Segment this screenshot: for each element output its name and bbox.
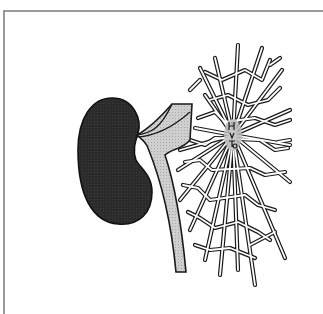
kidney — [78, 98, 152, 224]
kidney-illustration — [0, 0, 323, 314]
